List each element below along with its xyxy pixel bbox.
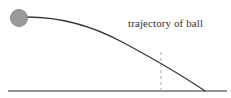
diagram-canvas (0, 0, 231, 98)
trajectory-label: trajectory of ball (128, 18, 203, 29)
projectile-trajectory-figure: trajectory of ball (0, 0, 231, 98)
ball-icon (11, 10, 28, 27)
